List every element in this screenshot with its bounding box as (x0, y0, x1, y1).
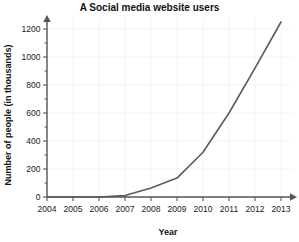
y-axis-tick-label: 1200 (22, 24, 41, 34)
x-axis-tick-label: 2011 (220, 204, 239, 214)
y-axis-tick-label: 1000 (22, 52, 41, 62)
x-axis-tick-label: 2007 (116, 204, 135, 214)
x-axis-tick-label: 2013 (272, 204, 291, 214)
y-axis-title: Number of people (in thousands) (3, 44, 13, 185)
x-axis-tick-label: 2005 (64, 204, 83, 214)
y-axis-tick-label: 400 (26, 136, 40, 146)
x-axis-tick-label: 2009 (168, 204, 187, 214)
y-axis-tick-label: 800 (26, 80, 40, 90)
y-axis-tick-label: 600 (26, 108, 40, 118)
chart-title: A Social media website users (80, 2, 220, 13)
x-axis-tick-label: 2004 (38, 204, 57, 214)
x-axis-tick-label: 2012 (246, 204, 265, 214)
y-axis-tick-label: 0 (36, 192, 41, 202)
x-axis-title: Year (158, 227, 178, 237)
x-axis-tick-label: 2006 (90, 204, 109, 214)
x-axis-tick-label: 2010 (194, 204, 213, 214)
chart-container: 020040060080010001200 200420052006200720… (0, 0, 299, 242)
x-axis-tick-label: 2008 (142, 204, 161, 214)
y-axis-tick-label: 200 (26, 164, 40, 174)
line-chart: 020040060080010001200 200420052006200720… (0, 0, 299, 242)
